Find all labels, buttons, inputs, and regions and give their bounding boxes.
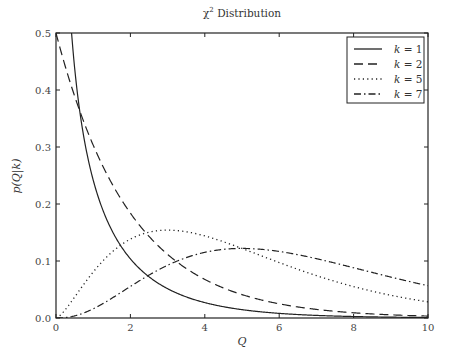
chart-title: χ2 Distribution — [203, 6, 281, 19]
chi-square-chart: χ2 Distribution 0246810 0.00.10.20.30.40… — [0, 0, 453, 350]
x-tick-label: 10 — [422, 322, 435, 333]
legend: k = 1k = 2k = 5k = 7 — [347, 37, 424, 103]
y-tick-label: 0.0 — [35, 313, 51, 324]
legend-label-k2: k = 2 — [394, 58, 423, 70]
y-axis-label: p(Q|k) — [10, 158, 24, 193]
curve-k5 — [56, 230, 428, 318]
y-tick-label: 0.2 — [35, 199, 51, 210]
y-tick-label: 0.1 — [35, 256, 51, 267]
y-tick-label: 0.3 — [35, 142, 51, 153]
x-tick-label: 0 — [53, 322, 59, 333]
y-tick-label: 0.4 — [35, 85, 51, 96]
curve-k7 — [56, 248, 428, 318]
title-rest: Distribution — [214, 7, 281, 19]
y-tick-label: 0.5 — [35, 28, 51, 39]
x-tick-label: 8 — [350, 322, 356, 333]
x-tick-label: 4 — [202, 322, 208, 333]
legend-label-k5: k = 5 — [394, 73, 423, 85]
legend-label-k7: k = 7 — [394, 88, 423, 100]
x-axis-label: Q — [237, 335, 246, 348]
x-tick-label: 6 — [276, 322, 282, 333]
legend-label-k1: k = 1 — [394, 43, 423, 55]
x-tick-label: 2 — [127, 322, 133, 333]
